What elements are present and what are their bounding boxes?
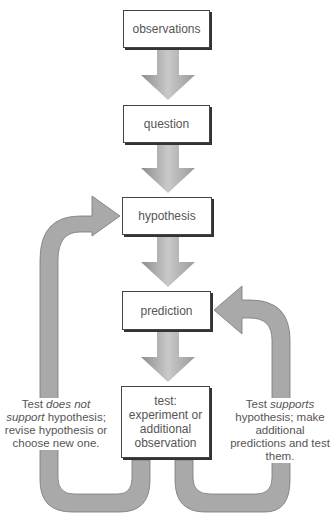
test-label-line: additional (140, 422, 191, 436)
note-text: Test (22, 398, 46, 410)
hypothesis-label: hypothesis (138, 209, 195, 223)
note-text: Test (246, 398, 270, 410)
observations-label: observations (132, 22, 200, 36)
does-not-support-note: Test does not support hypothesis; revise… (2, 398, 110, 450)
hypothesis-box: hypothesis (122, 197, 212, 235)
supports-note: Test supports hypothesis; make additiona… (228, 398, 332, 463)
question-box: question (123, 105, 210, 143)
test-box: test: experiment or additional observati… (121, 386, 210, 458)
observations-box: observations (123, 10, 210, 48)
loop-arrow-left-icon (40, 196, 150, 512)
note-emphasis: supports (270, 398, 314, 410)
test-label-line: experiment or (129, 408, 202, 422)
question-label: question (144, 117, 189, 131)
test-label-line: observation (134, 436, 196, 450)
prediction-label: prediction (140, 304, 192, 318)
note-text: hypothesis; make additional predictions … (230, 411, 330, 462)
test-label-line: test: (154, 394, 177, 408)
prediction-box: prediction (122, 291, 211, 330)
